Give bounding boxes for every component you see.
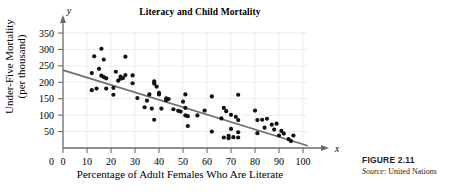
data-point xyxy=(203,108,207,112)
data-point xyxy=(131,73,135,77)
data-point xyxy=(111,93,115,97)
data-point xyxy=(123,55,127,59)
data-point xyxy=(97,67,101,71)
data-point xyxy=(131,81,135,85)
data-point xyxy=(135,96,139,100)
data-point xyxy=(236,118,240,122)
y-tick-label: 200 xyxy=(39,77,54,88)
y-axis-variable-label: y xyxy=(66,6,72,16)
y-tick-label: 100 xyxy=(39,110,54,121)
figure-container: Literacy and Child Mortality 01020304050… xyxy=(0,0,455,195)
data-point xyxy=(210,94,214,98)
x-tick-label: 60 xyxy=(202,156,212,167)
data-point xyxy=(155,84,159,88)
data-point xyxy=(145,99,149,103)
data-point xyxy=(210,129,214,133)
data-point xyxy=(227,136,231,140)
data-point xyxy=(186,124,190,128)
x-tick-label: 80 xyxy=(250,156,260,167)
data-point xyxy=(219,116,223,120)
data-point xyxy=(260,118,264,122)
data-point xyxy=(229,113,233,117)
data-point xyxy=(99,47,103,51)
data-point xyxy=(90,71,94,75)
data-point xyxy=(186,114,190,118)
x-tick-label: 30 xyxy=(130,156,140,167)
data-point xyxy=(222,135,226,139)
y-tick-label: 350 xyxy=(39,28,54,39)
y-axis-arrow-icon xyxy=(60,15,66,23)
y-tick-label: 300 xyxy=(39,44,54,55)
y-tick-label: 250 xyxy=(39,60,54,71)
data-point xyxy=(291,133,295,137)
x-axis-variable-label: x xyxy=(334,144,340,154)
data-point xyxy=(275,122,279,126)
x-tick-label: 90 xyxy=(274,156,284,167)
x-tick-label: 50 xyxy=(178,156,188,167)
data-point xyxy=(92,54,96,58)
data-point xyxy=(195,113,199,117)
data-point xyxy=(236,135,240,139)
data-point xyxy=(111,86,115,90)
y-tick-label: 150 xyxy=(39,93,54,104)
data-point xyxy=(147,92,151,96)
data-point xyxy=(236,130,240,134)
data-point xyxy=(229,127,233,131)
data-point xyxy=(277,133,281,137)
data-point xyxy=(265,117,269,121)
data-point xyxy=(263,126,267,130)
data-point xyxy=(159,106,163,110)
data-point xyxy=(150,106,154,110)
x-axis-arrow-icon xyxy=(321,145,329,151)
data-point xyxy=(270,123,274,127)
data-point xyxy=(282,131,286,135)
data-point xyxy=(255,131,259,135)
data-point xyxy=(231,135,235,139)
y-axis-title-line2: (per thousand) xyxy=(16,7,28,127)
data-point xyxy=(104,86,108,90)
data-point xyxy=(95,86,99,90)
data-point xyxy=(114,70,118,74)
data-point xyxy=(183,106,187,110)
data-point xyxy=(253,108,257,112)
data-point xyxy=(143,105,147,109)
data-point xyxy=(236,93,240,97)
data-point xyxy=(102,58,106,62)
figure-source: Source: United Nations xyxy=(362,167,455,176)
data-point xyxy=(181,100,185,104)
data-point xyxy=(255,118,259,122)
y-tick-label: 50 xyxy=(44,126,54,137)
x-tick-label: 40 xyxy=(154,156,164,167)
data-point xyxy=(224,109,228,113)
figure-source-text: : United Nations xyxy=(384,167,437,176)
x-tick-label: 0 xyxy=(61,156,66,167)
x-tick-label: 70 xyxy=(226,156,236,167)
y-axis-title-line1: Under-Five Mortality xyxy=(3,19,15,114)
data-point xyxy=(183,92,187,96)
x-axis-title: Percentage of Adult Females Who Are Lite… xyxy=(30,168,330,180)
x-tick-label: 100 xyxy=(296,156,311,167)
data-point xyxy=(104,76,108,80)
data-point xyxy=(171,107,175,111)
data-point xyxy=(179,109,183,113)
x-tick-label: 10 xyxy=(82,156,92,167)
x-tick-label: 20 xyxy=(106,156,116,167)
figure-number: FIGURE 2.11 xyxy=(362,155,455,165)
data-point xyxy=(272,128,276,132)
figure-caption: FIGURE 2.11 Source: United Nations xyxy=(362,155,455,176)
data-point xyxy=(90,88,94,92)
figure-source-word: Source xyxy=(362,167,384,176)
data-point xyxy=(167,97,171,101)
data-point xyxy=(157,92,161,96)
data-point xyxy=(123,73,127,77)
y-tick-label: 0 xyxy=(49,156,54,167)
data-point xyxy=(289,139,293,143)
data-point xyxy=(152,118,156,122)
y-axis-title: Under-Five Mortality (per thousand) xyxy=(4,7,27,127)
